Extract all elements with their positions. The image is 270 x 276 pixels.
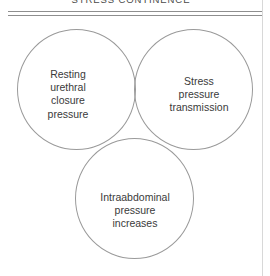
figure-title: STRESS CONTINENCE (0, 0, 262, 5)
stress-continence-venn-figure: STRESS CONTINENCE Resting urethral closu… (0, 0, 270, 276)
venn-label-intraabdominal-pressure-increases: Intraabdominal pressure increases (78, 191, 192, 231)
venn-label-resting-urethral-closure-pressure: Resting urethral closure pressure (26, 68, 110, 121)
venn-label-stress-pressure-transmission: Stress pressure transmission (156, 75, 242, 115)
venn-diagram: Resting urethral closure pressure Stress… (0, 16, 262, 276)
page-edge-rule (262, 0, 263, 276)
